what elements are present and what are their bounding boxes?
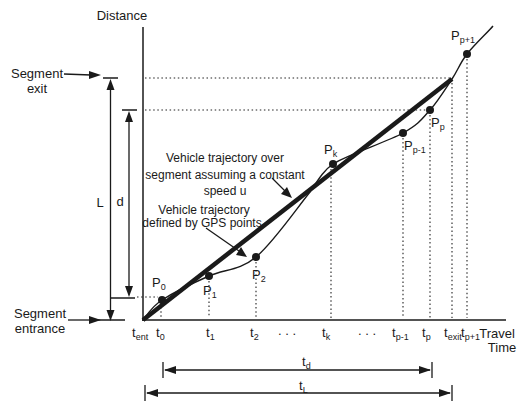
segment-exit-label-line2: exit bbox=[27, 81, 48, 96]
pp-1-label: Pp-1 bbox=[404, 138, 426, 155]
segment-entrance-arrowhead bbox=[89, 316, 101, 324]
tick-t-p: tp bbox=[422, 325, 431, 342]
y-axis-label: Distance bbox=[97, 8, 148, 23]
tick-t-exit: texit bbox=[444, 325, 462, 342]
p2-label: P2 bbox=[252, 267, 266, 284]
tick-t-1: t1 bbox=[206, 325, 215, 342]
x-axis-label-line1: Travel bbox=[479, 326, 515, 341]
pp-label: Pp bbox=[431, 115, 445, 132]
tick-ellipsis-2: . . . bbox=[358, 323, 376, 338]
constant-speed-annotation-line2: segment assuming a constant bbox=[145, 168, 305, 182]
constant-speed-annotation-line3: speed u bbox=[204, 184, 247, 198]
gps-annotation-line2: defined by GPS points bbox=[142, 216, 261, 230]
segment-entrance-label-line2: entrance bbox=[15, 321, 66, 336]
tick-t-k: tk bbox=[322, 325, 331, 342]
t-d-arrowhead-right bbox=[419, 366, 431, 374]
gps-point-pp-1 bbox=[399, 129, 407, 137]
tick-t-p+1: tp+1 bbox=[461, 325, 480, 342]
t-L-arrowhead-right bbox=[439, 389, 451, 397]
gps-point-pp bbox=[426, 106, 434, 114]
L-arrowhead-up bbox=[107, 79, 115, 90]
p1-label: P1 bbox=[203, 283, 217, 300]
gps-point-pp+1 bbox=[463, 50, 471, 58]
d-label: d bbox=[116, 194, 123, 209]
diagram-canvas: Distance Travel Time P0 P1 P2 Pk Pp-1 Pp… bbox=[0, 0, 528, 414]
segment-exit-label-line1: Segment bbox=[11, 66, 63, 81]
gps-annotation-line1: Vehicle trajectory bbox=[158, 203, 249, 217]
gps-point-p1 bbox=[205, 272, 213, 280]
constant-speed-trajectory-line bbox=[143, 79, 452, 320]
tick-t-p-1: tp-1 bbox=[392, 325, 409, 342]
gps-point-p2 bbox=[252, 253, 260, 261]
pp+1-label: Pp+1 bbox=[451, 28, 475, 45]
tick-t-0: t0 bbox=[156, 325, 165, 342]
t-L-arrowhead-left bbox=[146, 389, 158, 397]
tick-ellipsis-1: . . . bbox=[278, 323, 296, 338]
segment-exit-arrow-line bbox=[64, 74, 91, 75]
gps-point-p0 bbox=[158, 296, 166, 304]
t-d-arrowhead-left bbox=[164, 366, 176, 374]
tick-t-2: t2 bbox=[250, 325, 259, 342]
segment-exit-arrowhead bbox=[89, 71, 101, 79]
d-arrowhead-down bbox=[125, 286, 133, 297]
segment-entrance-label-line1: Segment bbox=[14, 306, 66, 321]
L-label: L bbox=[96, 195, 103, 210]
p0-label: P0 bbox=[152, 275, 166, 292]
t-d-label: td bbox=[302, 354, 311, 371]
d-arrowhead-up bbox=[125, 111, 133, 122]
tick-t-ent: tent bbox=[132, 325, 149, 342]
constant-speed-annotation-line1: Vehicle trajectory over bbox=[166, 151, 284, 165]
pk-label: Pk bbox=[324, 142, 338, 159]
gps-point-pk bbox=[329, 160, 337, 168]
trajectory-diagram: Distance Travel Time P0 P1 P2 Pk Pp-1 Pp… bbox=[0, 0, 528, 414]
x-axis-label-line2: Time bbox=[488, 340, 516, 355]
t-L-label: tL bbox=[299, 378, 308, 395]
gps-annotation-arrow-line bbox=[206, 228, 239, 251]
